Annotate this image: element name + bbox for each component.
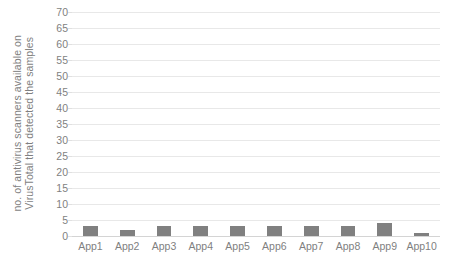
y-tick-label: 40: [56, 102, 68, 114]
bar-slot: [109, 12, 146, 236]
y-tick-label: 70: [56, 6, 68, 18]
bar-slot: [256, 12, 293, 236]
bar-slot: [330, 12, 367, 236]
y-tick-label: 20: [56, 166, 68, 178]
bar[interactable]: [193, 226, 208, 236]
bar[interactable]: [341, 226, 356, 236]
y-axis-title: no. of antivirus scanners available on V…: [0, 0, 46, 246]
x-tick-label: App9: [366, 240, 403, 252]
y-tick-label: 45: [56, 86, 68, 98]
bar[interactable]: [157, 226, 172, 236]
y-tick-label: 60: [56, 38, 68, 50]
bar-slot: [72, 12, 109, 236]
bar-slot: [293, 12, 330, 236]
bar[interactable]: [83, 226, 98, 236]
bar[interactable]: [230, 226, 245, 236]
y-tick-label: 50: [56, 70, 68, 82]
y-axis-tick-labels: 0510152025303540455055606570: [44, 12, 68, 236]
x-tick-label: App10: [403, 240, 440, 252]
bar[interactable]: [304, 226, 319, 236]
y-tick-label: 10: [56, 198, 68, 210]
y-tick-label: 35: [56, 118, 68, 130]
bar[interactable]: [267, 226, 282, 236]
bar-slot: [146, 12, 183, 236]
x-tick-label: App4: [182, 240, 219, 252]
x-tick-label: App5: [219, 240, 256, 252]
y-axis-tickmark: [68, 236, 72, 237]
y-tick-label: 15: [56, 182, 68, 194]
x-tick-label: App8: [330, 240, 367, 252]
x-axis-tick-labels: App1App2App3App4App5App6App7App8App9App1…: [72, 240, 440, 252]
bar[interactable]: [377, 223, 392, 236]
bar-slot: [403, 12, 440, 236]
bar[interactable]: [120, 230, 135, 236]
axis-baseline: [72, 236, 440, 237]
bar-slot: [182, 12, 219, 236]
bar-slot: [366, 12, 403, 236]
x-tick-label: App7: [293, 240, 330, 252]
y-axis-title-line-2: VirusTotal that detected the samples: [24, 37, 35, 210]
bar-series: [72, 12, 440, 236]
x-tick-label: App6: [256, 240, 293, 252]
x-tick-label: App1: [72, 240, 109, 252]
y-axis-title-line-1: no. of antivirus scanners available on: [12, 35, 23, 212]
x-tick-label: App2: [109, 240, 146, 252]
bar-chart: no. of antivirus scanners available on V…: [0, 0, 449, 275]
bar[interactable]: [414, 233, 429, 236]
x-tick-label: App3: [146, 240, 183, 252]
y-tick-label: 30: [56, 134, 68, 146]
y-tick-label: 65: [56, 22, 68, 34]
plot-area: [72, 12, 440, 236]
y-tick-label: 25: [56, 150, 68, 162]
y-tick-label: 55: [56, 54, 68, 66]
bar-slot: [219, 12, 256, 236]
